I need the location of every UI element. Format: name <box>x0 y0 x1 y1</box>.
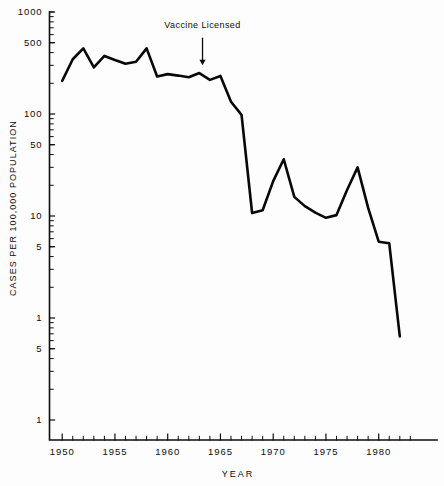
annotation-arrowhead-icon <box>199 60 205 66</box>
x-tick-label: 1955 <box>103 446 128 457</box>
measles-data-line <box>62 48 400 336</box>
y-tick-label: 5 <box>36 343 42 354</box>
x-tick-label: 1965 <box>208 446 233 457</box>
y-tick-label: 100 <box>24 108 43 119</box>
annotation-label: Vaccine Licensed <box>164 20 240 30</box>
x-tick-label: 1975 <box>314 446 339 457</box>
x-tick-label: 1950 <box>50 446 75 457</box>
axis-lines <box>50 12 438 440</box>
y-tick-label: 10 <box>30 210 42 221</box>
y-tick-label: 1 <box>36 414 42 425</box>
y-tick-label: 1000 <box>18 6 43 17</box>
y-axis-tick-labels: 100050010050105151 <box>18 6 43 425</box>
vaccine-licensed-annotation: Vaccine Licensed <box>164 20 240 66</box>
y-tick-label: 500 <box>24 37 43 48</box>
y-axis-title: CASES PER 100,000 POPULATION <box>8 120 18 296</box>
y-tick-label: 5 <box>36 241 42 252</box>
y-tick-label: 50 <box>30 139 42 150</box>
line-chart-canvas: 100050010050105151 195019551960196519701… <box>0 0 444 486</box>
x-tick-label: 1960 <box>155 446 180 457</box>
x-tick-label: 1980 <box>366 446 391 457</box>
x-axis-title: YEAR <box>222 469 255 479</box>
measles-incidence-figure: 100050010050105151 195019551960196519701… <box>0 0 444 486</box>
x-tick-label: 1970 <box>261 446 286 457</box>
y-tick-label: 1 <box>36 312 42 323</box>
x-axis-tick-labels: 1950195519601965197019751980 <box>50 446 391 457</box>
